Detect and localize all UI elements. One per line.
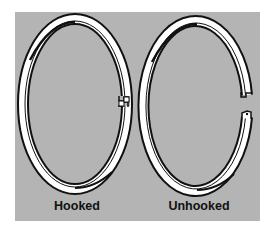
unhooked-label: Unhooked <box>149 199 249 213</box>
hooked-label: Hooked <box>27 199 127 213</box>
unhooked-ring-icon <box>143 21 252 191</box>
hooked-ring-icon <box>23 19 130 189</box>
